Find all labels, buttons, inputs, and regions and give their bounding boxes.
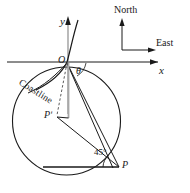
- segment-p-prime-to-p: [57, 117, 119, 167]
- theta-angle-label: θ: [76, 66, 81, 76]
- origin-label: O: [58, 55, 65, 65]
- arrow-right-icon-east: [148, 47, 156, 52]
- y-axis-label: y: [60, 16, 65, 27]
- chord-o-to-p: [67, 63, 119, 167]
- arrow-up-icon-north: [119, 18, 124, 26]
- x-axis-label: x: [159, 65, 164, 76]
- point-p-prime-label: Pʹ: [44, 110, 52, 120]
- coastline-curve: [36, 20, 78, 90]
- north-label: North: [114, 5, 137, 15]
- coastline-diagram: y x O θ Pʹ P 45° North East Coastline: [0, 0, 190, 193]
- arrow-right-icon-x-axis: [150, 59, 158, 65]
- east-label: East: [156, 38, 173, 48]
- point-p-label: P: [122, 160, 128, 170]
- angle-45-label: 45°: [94, 148, 107, 157]
- arrow-up-icon-y-axis: [65, 16, 71, 25]
- diagram-canvas: [0, 0, 190, 193]
